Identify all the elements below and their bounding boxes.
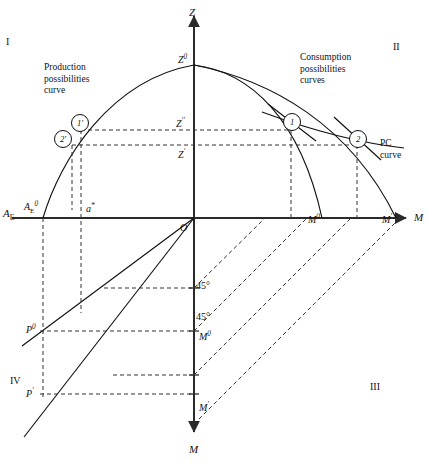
tick-m0-right: M0 (308, 213, 320, 225)
ray-through-p1 (24, 218, 194, 437)
ray-through-p0 (22, 218, 194, 346)
iii-diag-3 (194, 218, 351, 375)
tick-z1-superscript: ′ (184, 148, 186, 156)
tick-m1-right-superscript: ′ (390, 213, 392, 221)
tick-ae0-subscript: E (30, 207, 34, 215)
tick-z2: Z′′ (176, 117, 185, 129)
m-axis-right-label-text: M (414, 211, 423, 223)
ae-axis-left-label: AE (3, 207, 14, 222)
iii-diag-1 (194, 218, 265, 288)
tick-a-star: a* (86, 202, 95, 214)
angle-label-1-base: 45° (196, 280, 210, 291)
marker-2-prime: 2′ (54, 130, 72, 148)
dashed-connectors-group (40, 130, 400, 424)
marker-2: 2 (349, 130, 367, 148)
m-axis-right-label: M (414, 211, 423, 223)
ae-axis-left-label-subscript: E (10, 213, 15, 222)
marker-1: 1 (283, 113, 301, 131)
z-axis-label: Z (189, 6, 195, 18)
pc-curve-label-line-2: curve (380, 150, 401, 162)
marker-1-prime: 1′ (71, 114, 89, 132)
marker-2-label: 2 (356, 135, 360, 144)
tick-m1-down: M′ (199, 401, 209, 413)
z-axis-label-text: Z (189, 6, 195, 18)
tick-a-star-superscript: * (91, 202, 95, 210)
marker-2-prime-label: 2′ (60, 135, 66, 144)
pc-curve-label: PCcurve (380, 138, 401, 161)
quadrant-label-ii: II (393, 41, 400, 52)
pc-curve-label-line-1: PC (380, 138, 401, 150)
iii-diag-2 (194, 218, 307, 331)
tick-m1-down-superscript: ′ (207, 401, 209, 409)
consumption-possibilities-curves-label-line-1: Consumption (300, 52, 351, 64)
quadrant-label-i: I (6, 36, 9, 47)
tick-ae0: AE0 (24, 200, 38, 215)
production-possibilities-curve-label: Productionpossibilitiescurve (44, 62, 89, 97)
tick-p0: P0 (26, 323, 36, 335)
tick-p1: P′ (26, 387, 34, 399)
angle-label-1: 45° (196, 280, 210, 291)
tick-m1-right: M′ (382, 213, 392, 225)
iii-diag-4 (194, 218, 400, 424)
production-possibilities-curve-label-line-2: possibilities (44, 74, 89, 86)
tick-p0-superscript: 0 (32, 323, 36, 331)
tick-m0-right-superscript: 0 (316, 213, 320, 221)
tick-z1: Z′ (178, 148, 185, 160)
origin-base: O (180, 222, 187, 233)
angle-label-2: 45° (196, 311, 210, 322)
consumption-possibilities-curve-outer (194, 65, 322, 218)
m-axis-down-label-text: M (189, 443, 198, 455)
figure-canvas: IIIIIIIV ProductionpossibilitiescurveCon… (0, 0, 429, 462)
tick-m0-down-superscript: 0 (207, 330, 211, 338)
tick-p1-superscript: ′ (32, 387, 34, 395)
tick-z2-superscript: ′′ (182, 117, 185, 125)
origin: O (180, 222, 187, 233)
consumption-possibilities-curves-label-line-3: curves (300, 75, 351, 87)
consumption-possibilities-curves-label: Consumptionpossibilitiescurves (300, 52, 351, 87)
ae-axis-left-label-text: A (3, 207, 10, 219)
consumption-possibilities-curves-label-line-2: possibilities (300, 64, 351, 76)
tick-z0: Z0 (178, 53, 187, 65)
angle-label-2-base: 45° (196, 311, 210, 322)
tick-m0-down: M0 (199, 330, 211, 342)
production-possibilities-curve-label-line-3: curve (44, 85, 89, 97)
marker-1-label: 1 (290, 118, 294, 127)
production-possibilities-curve-label-line-1: Production (44, 62, 89, 74)
marker-1-prime-label: 1′ (77, 119, 83, 128)
tick-z0-superscript: 0 (184, 53, 188, 61)
m-axis-down-label: M (189, 443, 198, 455)
quadrant-label-iv: IV (10, 375, 21, 386)
tick-ae0-superscript: 0 (34, 200, 38, 208)
quadrant-label-iii: III (370, 381, 380, 392)
